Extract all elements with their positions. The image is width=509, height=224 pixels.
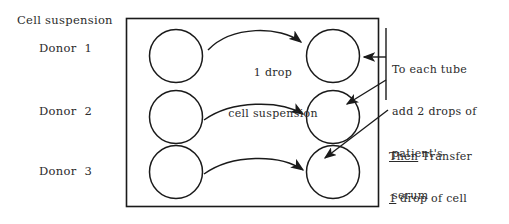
transfer-note-transfer-word: Transfer bbox=[418, 150, 472, 163]
serum-note-line-1: To each tube bbox=[392, 63, 508, 77]
cell-suspension-heading: Cell suspension bbox=[17, 13, 113, 27]
tube-circle-3 bbox=[307, 146, 360, 199]
drop-note-line-2: cell suspension bbox=[220, 107, 326, 121]
transfer-note-line-2-rest: drop of cell bbox=[396, 192, 467, 205]
transfer-note: Then Transfer 1 drop of cell suspension … bbox=[389, 122, 509, 224]
serum-note-line-2: add 2 drops of bbox=[392, 105, 508, 119]
donor-2-label: Donor 2 bbox=[39, 104, 92, 118]
cell-suspension-circle-1 bbox=[150, 30, 203, 83]
transfer-arrow-row-3 bbox=[204, 158, 303, 174]
serum-arrow-tube-2 bbox=[347, 80, 386, 104]
transfer-note-line-1: Then Transfer bbox=[389, 150, 509, 164]
donor-1-label: Donor 1 bbox=[39, 41, 92, 55]
diagram-canvas: Cell suspension Donor 1 Donor 2 Donor 3 … bbox=[0, 0, 509, 224]
cell-suspension-circle-3 bbox=[150, 146, 203, 199]
drop-note: 1 drop cell suspension bbox=[220, 39, 326, 147]
donor-3-label: Donor 3 bbox=[39, 164, 92, 178]
transfer-note-then-underlined: Then bbox=[389, 150, 418, 163]
transfer-note-line-2: 1 drop of cell bbox=[389, 192, 509, 206]
cell-suspension-circle-2 bbox=[150, 91, 203, 144]
drop-note-line-1: 1 drop bbox=[220, 66, 326, 80]
